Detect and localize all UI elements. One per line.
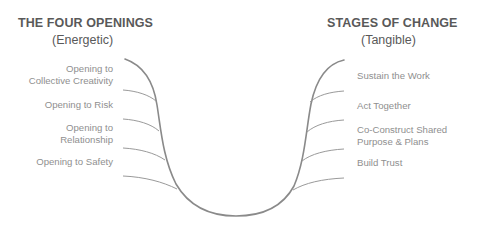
left-rib-3 [123, 148, 165, 160]
right-rib-2 [307, 120, 344, 132]
left-label-risk: Opening to Risk [45, 99, 113, 111]
left-title: THE FOUR OPENINGS [18, 16, 153, 30]
right-subtitle: (Tangible) [361, 33, 416, 47]
label-line: Collective Creativity [29, 75, 113, 87]
right-label-act-together: Act Together [357, 100, 411, 112]
left-rib-2 [123, 119, 159, 131]
label-line: Act Together [357, 100, 411, 112]
left-label-safety: Opening to Safety [36, 156, 113, 168]
u-curve [125, 59, 344, 216]
u-curve-diagram: THE FOUR OPENINGS (Energetic) STAGES OF … [0, 0, 478, 233]
left-label-collective-creativity: Opening to Collective Creativity [29, 63, 113, 87]
label-line: Opening to Risk [45, 99, 113, 111]
label-line: Co-Construct Shared [357, 124, 447, 136]
label-line: Sustain the Work [357, 70, 430, 82]
right-label-sustain: Sustain the Work [357, 70, 430, 82]
right-rib-4 [293, 178, 344, 190]
label-line: Relationship [60, 134, 113, 146]
label-line: Build Trust [357, 157, 402, 169]
right-label-build-trust: Build Trust [357, 157, 402, 169]
right-title: STAGES OF CHANGE [327, 16, 458, 30]
label-line: Opening to Safety [36, 156, 113, 168]
right-rib-1 [310, 91, 344, 102]
left-rib-1 [123, 90, 156, 101]
label-line: Opening to [60, 122, 113, 134]
right-label-co-construct: Co-Construct Shared Purpose & Plans [357, 124, 447, 148]
left-label-relationship: Opening to Relationship [60, 122, 113, 146]
left-rib-4 [123, 176, 177, 189]
right-rib-3 [302, 149, 344, 161]
label-line: Opening to [29, 63, 113, 75]
left-subtitle: (Energetic) [52, 33, 113, 47]
label-line: Purpose & Plans [357, 136, 447, 148]
